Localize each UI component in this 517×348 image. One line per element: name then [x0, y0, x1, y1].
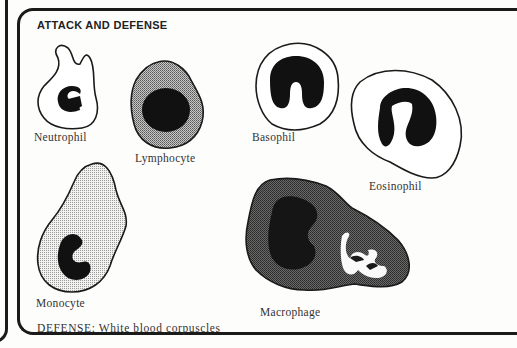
neutrophil-cell-icon — [38, 46, 97, 129]
macrophage-label: Macrophage — [260, 306, 320, 318]
figure-caption: DEFENSE: White blood corpuscles — [37, 322, 221, 334]
eosinophil-label: Eosinophil — [369, 180, 422, 192]
lymphocyte-label: Lymphocyte — [135, 152, 196, 164]
lymphocyte-cell-icon — [131, 61, 203, 148]
monocyte-label: Monocyte — [36, 297, 85, 309]
neutrophil-label: Neutrophil — [34, 131, 87, 143]
eosinophil-cell-icon — [352, 71, 462, 179]
basophil-label: Basophil — [252, 131, 295, 143]
macrophage-cell-icon — [246, 178, 409, 290]
basophil-cell-icon — [256, 43, 338, 130]
monocyte-cell-icon — [38, 163, 127, 292]
